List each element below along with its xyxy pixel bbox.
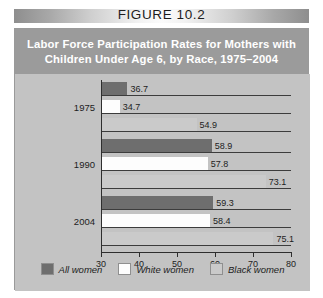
bar-1990-black-women (102, 175, 266, 188)
bar-value-label: 59.3 (216, 198, 234, 208)
bar-baseline-rule (102, 170, 291, 171)
legend-label-all-women: All women (59, 264, 103, 275)
category-label-1990: 1990 (41, 159, 95, 170)
bar-baseline-rule (102, 131, 291, 132)
x-axis-tick (139, 252, 140, 257)
bar-baseline-rule (102, 95, 291, 96)
x-axis-line (101, 252, 291, 253)
bar-1990-all-women (102, 139, 212, 152)
legend-label-white-women: White women (136, 264, 194, 275)
legend-swatch-all-women (41, 263, 54, 275)
bar-1975-black-women (102, 118, 197, 131)
figure-title-line-2: Children Under Age 6, by Race, 1975–2004 (45, 52, 279, 67)
bar-1975-white-women (102, 100, 120, 113)
legend-item-black-women: Black women (210, 263, 285, 275)
bar-2004-black-women (102, 232, 273, 245)
figure-number-label: FIGURE 10.2 (14, 5, 309, 25)
bar-baseline-rule (102, 113, 291, 114)
bar-value-label: 73.1 (269, 177, 287, 187)
bar-value-label: 58.9 (215, 141, 233, 151)
category-label-2004: 2004 (41, 216, 95, 227)
x-axis-tick (253, 252, 254, 257)
figure-container: FIGURE 10.2 Labor Force Participation Ra… (0, 0, 323, 298)
legend-swatch-black-women (210, 263, 223, 275)
x-axis-tick (101, 252, 102, 257)
bar-value-label: 34.7 (123, 102, 141, 112)
bar-value-label: 57.8 (211, 159, 229, 169)
legend-swatch-white-women (118, 263, 131, 275)
figure-panel: Labor Force Participation Rates for Moth… (14, 28, 309, 290)
bar-1990-white-women (102, 157, 208, 170)
legend-label-black-women: Black women (228, 264, 285, 275)
bar-2004-white-women (102, 214, 210, 227)
bar-baseline-rule (102, 245, 291, 246)
x-axis-tick (291, 252, 292, 257)
bar-value-label: 75.1 (276, 234, 294, 244)
figure-title-line-1: Labor Force Participation Rates for Moth… (27, 37, 296, 52)
bar-1975-all-women (102, 82, 127, 95)
figure-title-band: Labor Force Participation Rates for Moth… (15, 29, 308, 74)
x-axis-tick (177, 252, 178, 257)
chart-plot-area: 304050607080 197536.734.754.9199058.957.… (15, 74, 310, 291)
category-label-1975: 1975 (41, 102, 95, 113)
bar-2004-all-women (102, 196, 213, 209)
chart-legend: All women White women Black women (15, 263, 310, 275)
legend-item-white-women: White women (118, 263, 194, 275)
bar-value-label: 58.4 (213, 216, 231, 226)
bar-baseline-rule (102, 152, 291, 153)
legend-item-all-women: All women (41, 263, 103, 275)
bar-value-label: 54.9 (200, 120, 218, 130)
bar-value-label: 36.7 (130, 84, 148, 94)
bar-baseline-rule (102, 188, 291, 189)
bar-baseline-rule (102, 227, 291, 228)
x-axis-tick (215, 252, 216, 257)
bar-baseline-rule (102, 209, 291, 210)
